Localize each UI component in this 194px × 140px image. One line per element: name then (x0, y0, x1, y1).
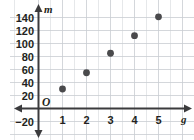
y-tick-label: 60 (22, 64, 34, 76)
y-tick-label: 100 (16, 38, 34, 50)
data-point (107, 50, 114, 57)
coordinate-plane: 140 120 100 80 60 40 20 −20 1 2 3 4 5 O … (0, 0, 194, 140)
y-tick-label: −20 (15, 116, 34, 128)
y-tick-label: 20 (22, 90, 34, 102)
scatter-plot-figure: 140 120 100 80 60 40 20 −20 1 2 3 4 5 O … (0, 0, 194, 140)
y-tick-label: 120 (16, 25, 34, 37)
data-point (155, 13, 162, 20)
x-tick-label: 1 (59, 114, 65, 126)
data-point (83, 69, 90, 76)
y-axis-label: m (44, 3, 53, 15)
y-tick-label: 40 (22, 77, 34, 89)
data-point (59, 86, 66, 93)
x-tick-label: 5 (155, 114, 161, 126)
x-tick-label: 2 (83, 114, 89, 126)
x-tick-label: 3 (107, 114, 113, 126)
data-point (131, 32, 138, 39)
x-tick-label: 4 (131, 114, 138, 126)
x-axis-label: g (180, 113, 187, 125)
y-tick-label: 140 (16, 12, 34, 24)
y-tick-label: 80 (22, 51, 34, 63)
origin-label: O (42, 96, 50, 108)
